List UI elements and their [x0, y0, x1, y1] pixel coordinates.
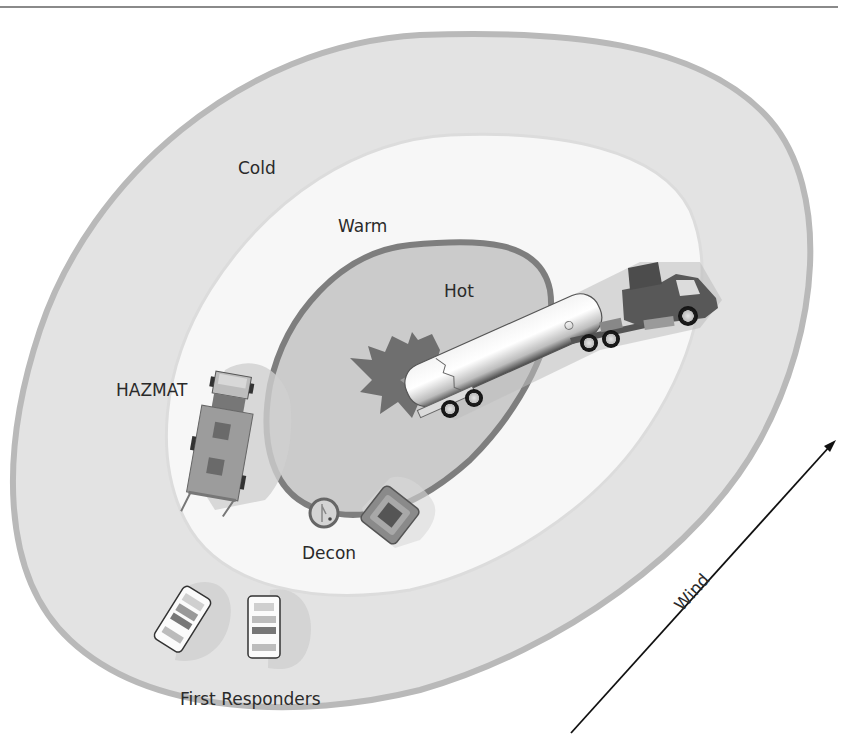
warm-zone-label: Warm: [338, 216, 387, 236]
hazmat-label: HAZMAT: [116, 380, 188, 400]
hazmat-zone-diagram: Cold Warm Hot HAZMAT Decon First Respond…: [0, 0, 848, 740]
wind-label: Wind: [670, 570, 713, 615]
decon-shower-icon: [310, 499, 338, 527]
police-car-icon: [248, 589, 311, 669]
decon-label: Decon: [302, 543, 356, 563]
hot-zone-label: Hot: [444, 281, 474, 301]
cold-zone-label: Cold: [238, 158, 276, 178]
first-responders-label: First Responders: [180, 689, 321, 709]
